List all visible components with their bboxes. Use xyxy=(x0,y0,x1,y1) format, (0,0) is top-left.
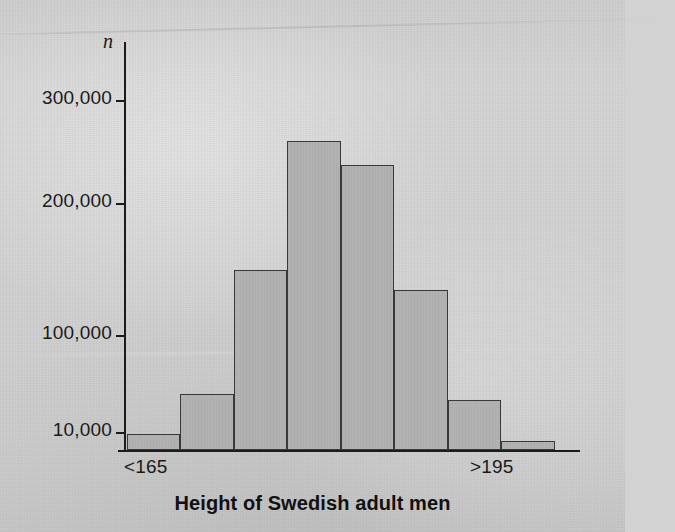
histogram-bar xyxy=(287,141,341,450)
histogram-bar xyxy=(180,394,234,450)
histogram-bar xyxy=(234,270,288,450)
histogram-bar xyxy=(448,400,502,450)
histogram-bar xyxy=(501,441,555,450)
x-tick-label-high: >195 xyxy=(470,456,514,478)
histogram-bar xyxy=(127,434,181,450)
histogram-bar xyxy=(394,290,448,450)
histogram-bar xyxy=(341,165,395,450)
chart-title: Height of Swedish adult men xyxy=(0,492,625,515)
x-tick-label-low: <165 xyxy=(124,456,168,478)
